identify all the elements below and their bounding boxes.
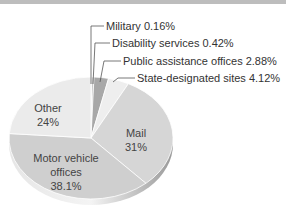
label-other-value: 24%: [37, 116, 59, 128]
label-motor-name2: offices: [50, 166, 82, 178]
label-mail-value: 31%: [125, 141, 147, 153]
label-motor-value: 38.1%: [50, 180, 81, 192]
callout-public-assistance: Public assistance offices 2.88%: [123, 55, 277, 67]
pie-slices: [9, 77, 173, 199]
pie-chart: Military 0.16% Disability services 0.42%…: [0, 0, 286, 213]
callout-military: Military 0.16%: [106, 20, 175, 32]
callout-disability: Disability services 0.42%: [112, 37, 234, 49]
callout-state-designated: State-designated sites 4.12%: [137, 72, 280, 84]
label-other-name: Other: [34, 102, 62, 114]
label-mail-name: Mail: [126, 127, 146, 139]
label-motor-name: Motor vehicle: [33, 152, 98, 164]
